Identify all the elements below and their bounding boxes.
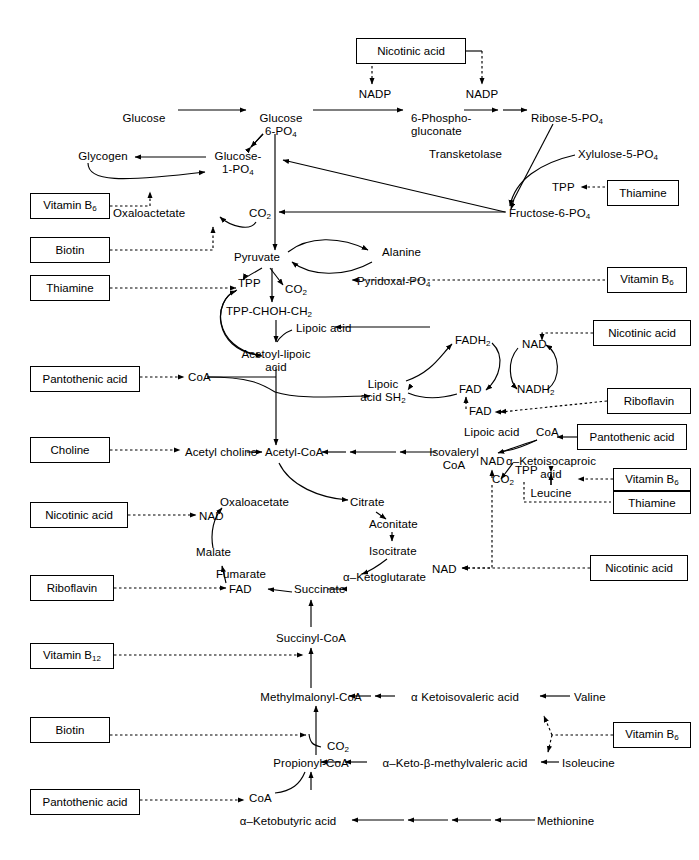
vitamin-box-label: Vitamin B12 [43,649,101,663]
metabolite-oxaloacetate-tca: Oxaloacetate [220,496,289,509]
metabolite-pyridoxal-phosphate: Pyridoxal-PO4 [357,275,431,291]
metabolite-methionine: Methionine [537,815,594,828]
metabolite-citrate: Citrate [350,496,385,509]
vitamin-box-nicotinic-top[interactable]: Nicotinic acid [356,38,466,64]
metabolite-lipoic-acid-sh2: Lipoicacid SH2 [360,378,406,407]
vitamin-box-label: Pantothenic acid [589,431,674,443]
metabolite-glucose: Glucose [123,112,166,125]
metabolite-nadp-right: NADP [466,88,498,101]
vitamin-box-label: Pantothenic acid [42,796,127,808]
vitamin-box-pantothenic-coa-bottom[interactable]: Pantothenic acid [30,789,140,815]
metabolite-alpha-ketoglutarate: α–Ketoglutarate [343,571,426,584]
vitamin-box-label: Nicotinic acid [608,327,676,339]
vitamin-box-label: Biotin [56,244,85,256]
vitamin-box-biotin-propionyl[interactable]: Biotin [30,717,110,743]
vitamin-box-label: Vitamin B6 [43,199,96,213]
metabolite-acetyl-coa: Acetyl-CoA [265,446,324,459]
vitamin-box-thiamine-transketolase[interactable]: Thiamine [607,180,679,206]
cofactor-fad-fumarate: FAD [229,583,252,596]
cofactor-tpp-transketolase: TPP [552,181,575,194]
vitamin-box-pantothenic-coa-left[interactable]: Pantothenic acid [30,366,140,392]
enzyme-transketolase: Transketolase [429,148,502,161]
vitamin-box-biotin-oxaloactetate[interactable]: Biotin [30,237,110,263]
metabolite-6-phosphogluconate: 6-Phospho-gluconate [411,112,471,138]
vitamin-box-choline[interactable]: Choline [30,437,110,463]
vitamin-box-label: Nicotinic acid [45,509,113,521]
metabolite-co2-oxaloactetate: CO2 [249,207,271,223]
metabolite-lipoic-acid-isovaleryl: Lipoic acid [464,426,519,439]
cofactor-fad-riboflavin: FAD [469,405,492,418]
vitamin-box-thiamine-leucine[interactable]: Thiamine [613,491,691,514]
metabolite-xylulose-5-phosphate: Xylulose-5-PO4 [578,148,658,164]
metabolite-co2-pyruvate: CO2 [285,283,307,299]
vitamin-box-nicotinic-nad-malate[interactable]: Nicotinic acid [30,502,128,528]
metabolite-fumarate: Fumarate [216,568,266,581]
metabolite-pyruvate: Pyruvate [234,251,280,264]
cofactor-tpp-pyruvate: TPP [238,277,261,290]
metabolite-valine: Valine [574,691,606,704]
metabolite-tpp-choh-ch2: TPP-CHOH-CH2 [226,305,312,321]
vitamin-box-b6-oxaloactetate[interactable]: Vitamin B6 [30,193,110,219]
metabolite-oxaloactetate-gluconeogenesis: Oxaloactetate [113,207,185,220]
cofactor-nad-malate: NAD [199,510,224,523]
metabolite-methylmalonyl-coa: Methylmalonyl-CoA [260,691,361,704]
vitamin-box-b6-leucine[interactable]: Vitamin B6 [613,468,691,491]
metabolite-ribose-5-phosphate: Ribose-5-PO4 [531,112,603,128]
cofactor-coa-isovaleryl: CoA [536,426,559,439]
cofactor-nadh2: NADH2 [517,383,555,399]
vitamin-box-label: Vitamin B6 [625,728,678,742]
metabolite-keto-beta-methylvaleric-acid: α–Keto-β-methylvaleric acid [382,757,527,770]
metabolic-pathway-diagram: Nicotinic acid Thiamine Vitamin B6 Bioti… [0,0,699,860]
metabolite-isoleucine: Isoleucine [562,757,615,770]
metabolite-isovaleryl-coa: IsovalerylCoA [429,446,479,472]
vitamin-box-label: Vitamin B6 [625,473,678,487]
metabolite-isocitrate: Isocitrate [369,545,417,558]
vitamin-box-label: Riboflavin [47,582,98,594]
vitamin-box-label: Thiamine [619,187,666,199]
vitamin-box-label: Pantothenic acid [42,373,127,385]
vitamin-box-label: Riboflavin [624,395,675,407]
metabolite-propionyl-coa: Propionyl-CoA [273,757,348,770]
metabolite-succinate: Succinate [294,583,345,596]
metabolite-glucose-6-phosphate: Glucose6-PO4 [260,112,303,141]
cofactor-nad-lipoic: NAD [522,338,547,351]
vitamin-box-pantothenic-coa-right[interactable]: Pantothenic acid [577,424,687,450]
cofactor-coa-pantothenic-left: CoA [188,371,211,384]
vitamin-box-b12-succinyl[interactable]: Vitamin B12 [30,643,114,669]
metabolite-acetoyl-lipoic-acid: Acetoyl-lipoicacid [241,348,310,374]
vitamin-box-label: Biotin [56,724,85,736]
vitamin-box-label: Choline [51,444,90,456]
metabolite-ketoisocaproic-acid: α–Ketoisocaproicacid [506,455,596,481]
vitamin-box-label: Nicotinic acid [605,562,673,574]
cofactor-coa-bottom: CoA [249,792,272,805]
cofactor-nad-isovaleryl: NAD [480,455,505,468]
vitamin-box-label: Thiamine [628,497,675,509]
cofactor-fadh2: FADH2 [455,334,491,350]
metabolite-leucine: Leucine [531,487,572,500]
cofactor-fad-cycle: FAD [459,383,482,396]
metabolite-glycogen: Glycogen [78,150,127,163]
vitamin-box-riboflavin-fad[interactable]: Riboflavin [607,388,691,414]
metabolite-alanine: Alanine [382,246,421,259]
metabolite-nadp-left: NADP [359,88,391,101]
vitamin-box-label: Vitamin B6 [620,273,673,287]
metabolite-malate: Malate [196,546,231,559]
vitamin-box-label: Nicotinic acid [377,45,445,57]
vitamin-box-b6-isoleucine[interactable]: Vitamin B6 [613,722,691,748]
metabolite-aconitate: Aconitate [369,518,418,531]
vitamin-box-nicotinic-nad-ketoglutarate[interactable]: Nicotinic acid [590,555,688,581]
cofactor-nad-ketoglutarate: NAD [432,563,457,576]
metabolite-succinyl-coa: Succinyl-CoA [276,632,346,645]
metabolite-alpha-ketobutyric-acid: α–Ketobutyric acid [240,815,337,828]
metabolite-lipoic-acid-upper: Lipoic acid [296,322,351,335]
metabolite-fructose-6-phosphate: Fructose-6-PO4 [509,207,590,223]
vitamin-box-riboflavin-fumarate[interactable]: Riboflavin [30,575,114,601]
metabolite-co2-propionyl: CO2 [327,740,349,756]
vitamin-box-thiamine-pyruvate[interactable]: Thiamine [30,275,110,301]
metabolite-ketoisovaleric-acid: α Ketoisovaleric acid [411,691,519,704]
vitamin-box-b6-pyridoxal[interactable]: Vitamin B6 [607,267,687,293]
metabolite-glucose-1-phosphate: Glucose-1-PO4 [215,150,262,179]
vitamin-box-label: Thiamine [46,282,93,294]
vitamin-box-nicotinic-nad-lipoic[interactable]: Nicotinic acid [593,320,691,346]
metabolite-acetyl-choline: Acetyl choline [185,446,257,459]
